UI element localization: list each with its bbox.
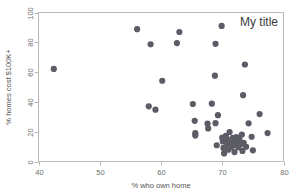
x-tick-label: 50 [96, 168, 104, 177]
x-axis-ticks [40, 162, 285, 166]
data-point [209, 101, 215, 107]
data-point [147, 41, 153, 47]
data-point [190, 101, 196, 107]
data-point [242, 61, 248, 67]
chart-title: My title [240, 15, 278, 29]
data-point [174, 40, 180, 46]
y-tick-label: 60 [26, 68, 35, 76]
data-point [205, 125, 211, 131]
data-point [245, 120, 251, 126]
data-point [192, 132, 198, 138]
y-axis-ticks [35, 14, 39, 163]
data-point [250, 147, 256, 153]
data-point [192, 118, 198, 124]
data-point [264, 130, 270, 136]
x-tick-label: 60 [157, 168, 165, 177]
plot-frame [39, 13, 284, 162]
data-point [227, 129, 233, 135]
scatter-markers [51, 23, 271, 157]
data-point [214, 142, 220, 148]
data-point [249, 134, 255, 140]
data-point [212, 120, 218, 126]
data-point [159, 78, 165, 84]
chart-canvas: 4050607080 020406080100 % who own home %… [0, 0, 295, 193]
data-point [51, 66, 57, 72]
x-tick-label: 80 [280, 168, 288, 177]
data-point [215, 112, 221, 118]
x-tick-label: 70 [218, 168, 226, 177]
y-tick-label: 80 [26, 38, 35, 46]
y-axis-tick-labels: 020406080100 [26, 7, 35, 164]
x-axis-tick-labels: 4050607080 [35, 168, 288, 177]
y-tick-label: 100 [26, 7, 35, 20]
y-tick-label: 0 [26, 160, 35, 164]
data-point [176, 29, 182, 35]
data-point [146, 103, 152, 109]
data-point [243, 144, 249, 150]
data-point [257, 111, 263, 117]
y-tick-label: 20 [26, 128, 35, 136]
data-point [152, 107, 158, 113]
data-point [239, 131, 245, 137]
y-axis-title: % homes cost $100K+ [4, 49, 13, 125]
data-point [212, 41, 218, 47]
data-point [219, 23, 225, 29]
scatter-plot-figure: 4050607080 020406080100 % who own home %… [0, 0, 295, 193]
data-point [212, 73, 218, 79]
x-axis-title: % who own home [131, 181, 190, 190]
data-point [134, 26, 140, 32]
y-tick-label: 40 [26, 98, 35, 106]
data-point [240, 92, 246, 98]
x-tick-label: 40 [35, 168, 43, 177]
